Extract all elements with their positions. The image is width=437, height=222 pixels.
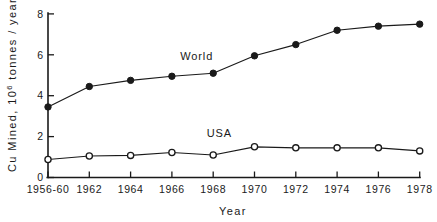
data-point-usa-1956-60: [45, 156, 51, 162]
data-point-world-1964: [127, 77, 133, 83]
data-point-world-1970: [251, 53, 257, 59]
x-tick-label-2: 1964: [118, 183, 144, 195]
line-chart-plot: 0 2 4 6 8 1956-60 1962 1964 1966 1968: [0, 0, 437, 222]
data-point-usa-1972: [293, 145, 299, 151]
data-point-usa-1968: [210, 152, 216, 158]
y-tick-label-4: 4: [37, 89, 43, 101]
series-line-usa: [48, 147, 420, 160]
series-annotation-usa: USA: [207, 127, 232, 139]
y-tick-label-2: 2: [37, 130, 43, 142]
series-layer: [45, 21, 423, 163]
x-tick-label-8: 1976: [366, 183, 392, 195]
data-point-usa-1962: [86, 153, 92, 159]
data-point-usa-1978: [417, 148, 423, 154]
y-axis-ticks: [48, 14, 54, 178]
series-line-world: [48, 24, 420, 107]
x-axis-ticks: [48, 172, 420, 178]
data-point-usa-1964: [128, 152, 134, 158]
series-annotation-world: World: [180, 50, 213, 62]
x-axis-title: Year: [219, 205, 247, 217]
data-point-world-1972: [293, 41, 299, 47]
data-point-world-1976: [375, 23, 381, 29]
y-tick-label-0: 0: [37, 171, 43, 183]
y-tick-label-8: 8: [37, 8, 43, 20]
data-point-usa-1976: [375, 145, 381, 151]
x-axis-tick-labels: 1956-60 1962 1964 1966 1968 1970 1972 19…: [27, 183, 433, 195]
x-tick-label-9: 1978: [407, 183, 433, 195]
x-tick-label-3: 1966: [159, 183, 185, 195]
svg-text:Cu Mined, 106 tonnes / year: Cu Mined, 106 tonnes / year: [5, 0, 18, 172]
data-point-usa-1970: [251, 144, 257, 150]
x-tick-label-4: 1968: [200, 183, 226, 195]
chart-container: 0 2 4 6 8 1956-60 1962 1964 1966 1968: [0, 0, 437, 222]
x-tick-label-0: 1956-60: [27, 183, 70, 195]
y-axis-title-trail: tonnes / year: [6, 0, 18, 84]
data-point-world-1956-60: [45, 104, 51, 110]
data-point-world-1968: [210, 70, 216, 76]
data-point-usa-1966: [169, 149, 175, 155]
y-axis-tick-labels: 0 2 4 6 8: [37, 8, 43, 183]
data-point-world-1978: [417, 21, 423, 27]
y-tick-label-6: 6: [37, 49, 43, 61]
y-axis-title: Cu Mined, 106 tonnes / year: [5, 0, 18, 172]
y-axis-title-lead: Cu Mined, 10: [6, 90, 18, 172]
data-point-usa-1974: [334, 145, 340, 151]
x-tick-label-6: 1972: [283, 183, 309, 195]
x-tick-label-1: 1962: [76, 183, 102, 195]
data-point-world-1962: [86, 83, 92, 89]
data-point-world-1966: [169, 73, 175, 79]
x-tick-label-5: 1970: [242, 183, 268, 195]
data-point-world-1974: [334, 27, 340, 33]
x-tick-label-7: 1974: [324, 183, 350, 195]
